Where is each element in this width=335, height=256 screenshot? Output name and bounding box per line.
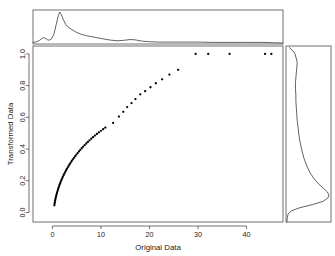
data-point [122, 111, 124, 113]
y-tick-label: 0.4 [19, 144, 28, 154]
data-point [100, 130, 102, 132]
data-point [96, 133, 98, 135]
x-tick-label: 10 [97, 230, 105, 239]
data-point [87, 141, 89, 143]
y-tick-label: 0.0 [19, 207, 28, 217]
data-point [98, 131, 100, 133]
scatter-with-marginal-densities: 010203040 0.00.20.40.60.81.0 Original Da… [0, 0, 335, 256]
x-tick-label: 0 [50, 230, 54, 239]
data-point [194, 53, 196, 55]
data-point [228, 53, 230, 55]
data-point [104, 127, 106, 129]
data-point [139, 93, 141, 95]
data-point [118, 115, 120, 117]
data-point [207, 53, 209, 55]
x-tick-label: 40 [243, 230, 251, 239]
data-point [94, 134, 96, 136]
top-density-curve [33, 12, 283, 43]
data-point [102, 128, 104, 130]
data-point [92, 136, 94, 138]
data-point [168, 73, 170, 75]
y-tick-label: 0.8 [19, 81, 28, 91]
data-point [144, 90, 146, 92]
data-point [177, 69, 179, 71]
right-density-curve [287, 48, 329, 222]
y-axis: 0.00.20.40.60.81.0 [19, 49, 30, 218]
main-plot-frame [33, 46, 283, 222]
x-tick-label: 30 [194, 230, 202, 239]
scatter-points [53, 53, 272, 207]
data-point [149, 86, 151, 88]
data-point [88, 139, 90, 141]
right-density-frame [286, 46, 331, 222]
data-point [264, 53, 266, 55]
data-point [90, 138, 92, 140]
data-point [155, 82, 157, 84]
data-point [270, 53, 272, 55]
y-tick-label: 0.2 [19, 176, 28, 186]
figure-panel: 010203040 0.00.20.40.60.81.0 Original Da… [0, 0, 335, 256]
data-point [130, 102, 132, 104]
x-axis-title: Original Data [135, 243, 181, 252]
y-tick-label: 1.0 [19, 49, 28, 59]
x-axis: 010203040 [50, 226, 250, 239]
data-point [134, 98, 136, 100]
data-point [161, 78, 163, 80]
y-tick-label: 0.6 [19, 112, 28, 122]
x-tick-label: 20 [146, 230, 154, 239]
top-density-frame [33, 10, 283, 44]
data-point [126, 106, 128, 108]
y-axis-title: Transformed Data [6, 102, 15, 165]
data-point [112, 122, 114, 124]
